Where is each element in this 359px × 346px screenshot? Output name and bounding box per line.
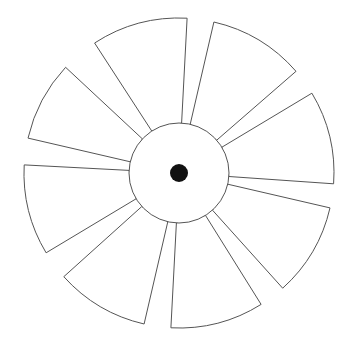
fan-svg	[0, 0, 359, 346]
pinwheel-diagram	[0, 0, 359, 346]
center-dot	[170, 164, 188, 182]
